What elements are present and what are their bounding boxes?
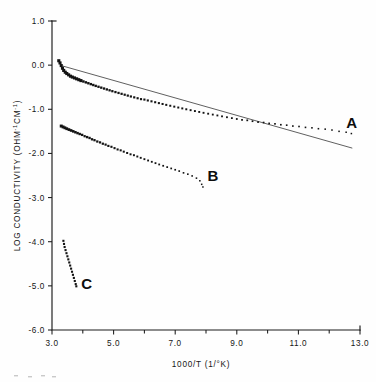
y-tick-label: -2.0 <box>28 149 45 158</box>
data-point <box>106 88 108 90</box>
data-point <box>185 108 187 110</box>
data-point <box>173 106 175 108</box>
data-point <box>190 109 192 111</box>
data-point <box>60 64 63 67</box>
data-point <box>351 133 353 135</box>
data-point <box>63 243 65 245</box>
y-axis-ticks <box>48 21 52 330</box>
x-tick-label: 9.0 <box>230 339 243 348</box>
x-axis-tick-labels: 3.05.07.09.011.013.0 <box>45 339 369 348</box>
data-point <box>110 146 112 148</box>
data-point <box>263 122 265 124</box>
data-point <box>117 148 119 150</box>
data-point <box>95 85 97 87</box>
data-point <box>70 268 72 270</box>
data-point <box>76 132 78 134</box>
data-point <box>99 141 101 143</box>
data-point <box>130 153 132 155</box>
series-b <box>60 125 204 188</box>
y-tick-label: 1.0 <box>32 17 45 26</box>
data-point <box>113 147 115 149</box>
x-tick-label: 11.0 <box>290 339 308 348</box>
data-point <box>216 115 218 117</box>
data-point <box>231 117 233 119</box>
data-point <box>72 274 74 276</box>
series-labels: ABC <box>81 114 357 292</box>
data-point <box>183 172 185 174</box>
series-label-a: A <box>346 114 357 131</box>
arrhenius-conductivity-chart: 1.00.0-1.0-2.0-3.0-4.0-5.0-6.0 3.05.07.0… <box>0 0 376 382</box>
data-point <box>140 157 142 159</box>
data-point <box>133 96 135 98</box>
axis-spines <box>52 21 360 330</box>
y-tick-label: -5.0 <box>28 282 45 291</box>
fitted-trend-lines <box>63 66 353 148</box>
data-point <box>103 87 105 89</box>
data-point <box>82 80 84 82</box>
data-point <box>114 91 116 93</box>
data-point <box>67 258 69 260</box>
data-point <box>292 125 294 127</box>
data-point <box>73 277 75 279</box>
x-tick-label: 7.0 <box>169 339 182 348</box>
data-point <box>92 84 94 86</box>
data-point <box>212 114 214 116</box>
data-point <box>62 240 64 242</box>
data-point <box>252 120 254 122</box>
data-point <box>257 121 259 123</box>
data-point <box>120 149 122 151</box>
data-point <box>87 82 89 84</box>
data-point <box>207 113 209 115</box>
data-point <box>74 131 77 134</box>
data-point <box>117 92 119 94</box>
data-point <box>147 99 149 101</box>
data-point <box>136 156 138 158</box>
series-label-c: C <box>81 275 92 292</box>
axes-frame <box>52 21 360 330</box>
data-point <box>305 127 307 129</box>
data-point <box>155 162 157 164</box>
data-point <box>88 137 90 139</box>
data-point <box>177 107 179 109</box>
data-point <box>151 161 153 163</box>
x-axis-title: 1000/T (1/°K) <box>172 360 230 369</box>
data-point <box>79 133 81 135</box>
data-point <box>324 128 326 130</box>
data-point <box>96 140 98 142</box>
data-point <box>85 81 87 83</box>
data-point <box>143 158 145 160</box>
data-point <box>166 166 168 168</box>
data-point <box>120 93 122 95</box>
data-point <box>147 160 149 162</box>
data-point <box>196 177 198 179</box>
scan-speck <box>28 376 32 377</box>
series-a <box>57 59 352 134</box>
data-point <box>107 145 109 147</box>
data-point <box>162 165 164 167</box>
x-tick-label: 5.0 <box>107 339 120 348</box>
data-point <box>64 246 66 248</box>
data-point <box>331 129 333 131</box>
data-point <box>111 90 113 92</box>
x-tick-label: 13.0 <box>351 339 369 348</box>
data-point <box>274 123 276 125</box>
data-series-points <box>57 59 352 287</box>
y-axis-tick-labels: 1.00.0-1.0-2.0-3.0-4.0-5.0-6.0 <box>28 17 45 335</box>
scan-speck <box>52 376 56 377</box>
figure-container: 1.00.0-1.0-2.0-3.0-4.0-5.0-6.0 3.05.07.0… <box>0 0 376 382</box>
data-point <box>162 103 164 105</box>
data-point <box>298 126 300 128</box>
data-point <box>199 180 201 182</box>
data-point <box>127 95 129 97</box>
data-point <box>108 89 110 91</box>
data-point <box>93 139 95 141</box>
data-point <box>174 169 176 171</box>
data-point <box>201 184 203 186</box>
data-point <box>140 98 142 100</box>
data-point <box>90 83 92 85</box>
data-point <box>194 110 196 112</box>
y-tick-label: -1.0 <box>28 105 45 114</box>
data-point <box>158 164 160 166</box>
data-point <box>236 118 238 120</box>
data-point <box>65 252 67 254</box>
